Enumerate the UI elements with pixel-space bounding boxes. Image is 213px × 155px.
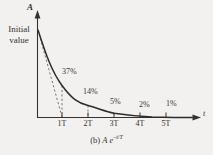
- y-axis-label: A: [27, 3, 33, 12]
- caption-expression-base: A e: [102, 135, 113, 145]
- annotation-1-percent: 1%: [166, 100, 177, 108]
- annotation-14-percent: 14%: [83, 88, 98, 96]
- x-tick-label-2t: 2T: [79, 119, 97, 128]
- initial-value-line1: Initial: [2, 24, 36, 35]
- caption-expression-exponent: –t/T: [113, 134, 123, 140]
- x-axis-label: t: [203, 110, 205, 118]
- x-tick-label-5t: 5T: [157, 119, 175, 128]
- annotation-2-percent: 2%: [139, 101, 150, 109]
- initial-value-line2: value: [2, 35, 36, 46]
- figure-caption: (b) A e–t/T: [0, 134, 213, 145]
- annotation-5-percent: 5%: [110, 98, 121, 106]
- x-tick-label-4t: 4T: [131, 119, 149, 128]
- annotation-37-percent: 37%: [62, 68, 77, 76]
- initial-value-label: Initial value: [2, 24, 36, 46]
- exponential-decay-figure: A t Initial value 37% 14% 5% 2% 1% 1T 2T…: [0, 0, 213, 155]
- x-tick-label-1t: 1T: [53, 119, 71, 128]
- x-tick-label-3t: 3T: [105, 119, 123, 128]
- caption-prefix: (b): [90, 135, 100, 145]
